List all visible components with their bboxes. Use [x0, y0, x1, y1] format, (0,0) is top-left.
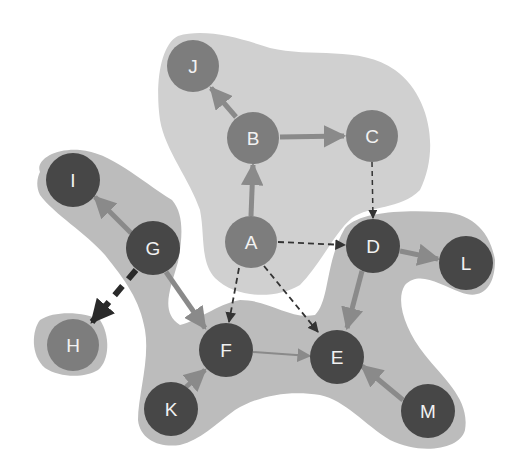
- node-i[interactable]: I: [46, 153, 100, 207]
- svg-text:B: B: [247, 128, 260, 149]
- svg-text:E: E: [331, 347, 344, 368]
- svg-text:K: K: [165, 399, 178, 420]
- svg-text:I: I: [70, 170, 75, 191]
- edge-a-b: [251, 165, 253, 216]
- node-m[interactable]: M: [401, 384, 455, 438]
- svg-text:A: A: [245, 232, 258, 253]
- node-k[interactable]: K: [144, 382, 198, 436]
- node-c[interactable]: C: [346, 110, 398, 162]
- node-l[interactable]: L: [439, 236, 493, 290]
- node-a[interactable]: A: [225, 216, 277, 268]
- node-f[interactable]: F: [199, 323, 253, 377]
- node-d[interactable]: D: [346, 219, 400, 273]
- svg-text:M: M: [420, 401, 436, 422]
- edge-b-c: [280, 136, 344, 137]
- svg-text:H: H: [66, 335, 80, 356]
- svg-text:J: J: [188, 56, 198, 77]
- svg-text:L: L: [461, 253, 472, 274]
- node-b[interactable]: B: [227, 112, 279, 164]
- svg-text:C: C: [365, 126, 379, 147]
- svg-text:G: G: [146, 238, 161, 259]
- graph-diagram: J B C A D L I G: [0, 0, 518, 472]
- node-e[interactable]: E: [310, 330, 364, 384]
- svg-text:F: F: [220, 340, 232, 361]
- node-g[interactable]: G: [126, 221, 180, 275]
- node-j[interactable]: J: [167, 40, 219, 92]
- svg-text:D: D: [366, 236, 380, 257]
- edge-g-h: [92, 270, 136, 322]
- node-h[interactable]: H: [47, 319, 99, 371]
